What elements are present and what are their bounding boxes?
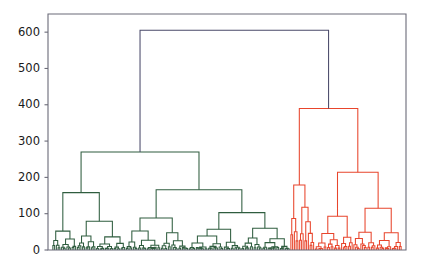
dendrogram-link bbox=[305, 241, 307, 250]
dendrogram-link bbox=[81, 152, 199, 193]
dendrogram-link bbox=[167, 233, 178, 243]
dendrogram-link bbox=[66, 239, 75, 246]
dendrogram-link bbox=[291, 235, 293, 250]
y-tick-label: 200 bbox=[18, 170, 40, 184]
dendrogram-link bbox=[197, 236, 216, 244]
dendrogram-link bbox=[63, 193, 99, 231]
y-tick-label: 300 bbox=[18, 134, 40, 148]
axes-spines bbox=[48, 14, 406, 250]
dendrogram-link bbox=[349, 246, 351, 250]
dendrogram-link bbox=[115, 247, 119, 249]
y-axis-tick-labels: 0100200300400500600 bbox=[18, 25, 40, 257]
dendrogram-link bbox=[140, 30, 329, 152]
dendrogram-link bbox=[365, 208, 391, 233]
dendrogram-link bbox=[88, 242, 93, 247]
dendrogram-link bbox=[53, 245, 55, 250]
dendrogram-link bbox=[219, 213, 265, 230]
dendrogram-link bbox=[379, 240, 389, 246]
dendrogram-link bbox=[302, 207, 308, 233]
dendrogram-link bbox=[338, 172, 379, 216]
dendrogram-link bbox=[300, 240, 302, 250]
dendrogram-link bbox=[86, 221, 112, 237]
dendrogram-link bbox=[396, 243, 400, 247]
dendrogram-link bbox=[294, 185, 305, 219]
y-tick-label: 600 bbox=[18, 25, 40, 39]
dendrogram-figure: 0100200300400500600 bbox=[0, 0, 423, 271]
dendrogram-link bbox=[190, 248, 194, 249]
dendrogram-link bbox=[162, 246, 166, 249]
dendrogram-link bbox=[328, 216, 347, 237]
dendrogram-link bbox=[310, 245, 312, 250]
dendrogram-link bbox=[330, 240, 337, 246]
dendrogram-link bbox=[156, 190, 242, 218]
dendrogram-links bbox=[53, 30, 401, 250]
dendrogram-link bbox=[369, 243, 374, 247]
dendrogram-link bbox=[296, 241, 298, 250]
dendrogram-link bbox=[292, 219, 296, 235]
y-tick-label: 500 bbox=[18, 61, 40, 75]
dendrogram-plot: 0100200300400500600 bbox=[0, 0, 423, 271]
dendrogram-link bbox=[322, 234, 334, 243]
dendrogram-link bbox=[336, 246, 340, 249]
dendrogram-link bbox=[141, 240, 154, 245]
y-tick-label: 0 bbox=[33, 243, 40, 257]
dendrogram-link bbox=[226, 242, 235, 247]
dendrogram-link bbox=[359, 232, 371, 243]
dendrogram-link bbox=[253, 228, 277, 239]
y-tick-label: 400 bbox=[18, 97, 40, 111]
dendrogram-link bbox=[54, 241, 58, 246]
y-tick-label: 100 bbox=[18, 206, 40, 220]
dendrogram-link bbox=[299, 108, 357, 185]
dendrogram-link bbox=[384, 233, 398, 243]
axis-group: 0100200300400500600 bbox=[18, 25, 48, 257]
plot-frame bbox=[48, 14, 406, 250]
